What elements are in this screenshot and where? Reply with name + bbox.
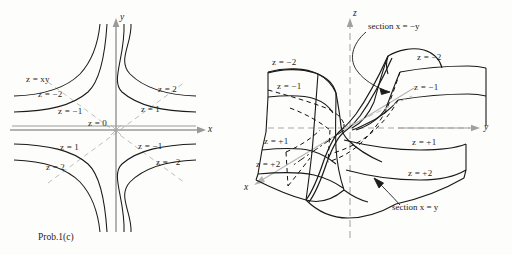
right-surface-svg xyxy=(0,0,512,255)
contour-axis-label-x: x xyxy=(208,124,212,134)
contour-label-q2-n1: z = −1 xyxy=(58,106,82,116)
figure-page: z = xy z = −2 z = −1 z = 0 z = 2 z = 1 z… xyxy=(0,0,512,255)
contour-label-q1-p1: z = 1 xyxy=(141,104,160,114)
surface-axis-label-x: x xyxy=(244,182,248,192)
surface-diagonal-guide xyxy=(344,96,412,128)
surface-y-axis xyxy=(268,125,480,132)
contour-label-q3-p2: z = 2 xyxy=(46,162,65,172)
contour-axis-label-y: y xyxy=(120,12,124,22)
surface-label-back-right-n2: z = −2 xyxy=(417,52,441,62)
surface-annotation-section-pos: section x = y xyxy=(392,202,438,212)
surface-label-front-left-p2: z = +2 xyxy=(256,159,280,169)
surface-label-back-right-n1: z = −1 xyxy=(414,82,438,92)
figure-caption: Prob.1(c) xyxy=(38,232,74,242)
surface-axis-label-z: z xyxy=(353,8,357,18)
surface-front-sheet xyxy=(306,140,466,218)
surface-axis-label-y: y xyxy=(484,122,488,132)
contour-label-q4-n2: z = −2 xyxy=(156,157,180,167)
surface-label-front-right-p1: z = +1 xyxy=(412,137,436,147)
surface-label-front-right-p2: z = +2 xyxy=(408,168,432,178)
contour-label-q3-p1: z = 1 xyxy=(60,142,79,152)
contour-label-zero: z = 0 xyxy=(88,118,107,128)
surface-label-front-left-p1: z = +1 xyxy=(264,136,288,146)
contour-label-fn: z = xy xyxy=(26,74,50,84)
contour-label-q4-n1: z = −1 xyxy=(138,141,162,151)
surface-annotation-section-neg: section x = −y xyxy=(368,21,419,31)
contour-label-q1-p2: z = 2 xyxy=(158,84,177,94)
surface-label-back-left-n2: z = −2 xyxy=(272,57,296,67)
surface-label-back-left-n1: z = −1 xyxy=(277,81,301,91)
surface-saddle-throat xyxy=(306,56,392,202)
contour-label-q2-n2: z = −2 xyxy=(38,89,62,99)
